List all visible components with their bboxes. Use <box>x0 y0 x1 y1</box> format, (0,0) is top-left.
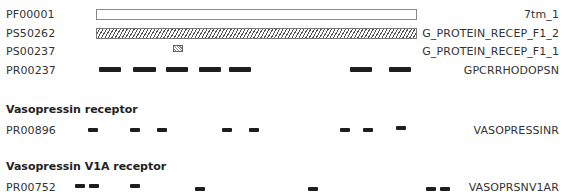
domain-box-open[interactable] <box>96 9 417 20</box>
section-title-vasopressin-receptor: Vasopressin receptor <box>6 103 138 116</box>
row-id-pr00237[interactable]: PR00237 <box>6 64 56 77</box>
segment[interactable] <box>195 187 205 191</box>
segment[interactable] <box>229 67 251 72</box>
segment[interactable] <box>340 128 350 132</box>
domain-box-hatched[interactable] <box>96 28 417 39</box>
segment[interactable] <box>130 184 140 188</box>
motif-box-small[interactable] <box>173 45 183 52</box>
row-name-g-protein-recep-f1-1: G_PROTEIN_RECEP_F1_1 <box>422 45 559 58</box>
row-name-vasopressinr: VASOPRESSINR <box>474 124 560 137</box>
segment[interactable] <box>389 67 411 72</box>
segment[interactable] <box>75 184 85 188</box>
segment[interactable] <box>89 184 99 188</box>
segment[interactable] <box>166 67 188 72</box>
segment[interactable] <box>133 67 156 72</box>
segment[interactable] <box>130 128 140 132</box>
section-title-vasopressin-v1a-receptor: Vasopressin V1A receptor <box>6 160 166 173</box>
segment[interactable] <box>308 187 318 191</box>
row-id-pr00896[interactable]: PR00896 <box>6 124 56 137</box>
segment[interactable] <box>88 128 98 132</box>
segment[interactable] <box>99 67 121 72</box>
row-name-7tm-1: 7tm_1 <box>524 8 559 21</box>
row-name-gpcrrhodopsn: GPCRRHODOPSN <box>464 64 559 77</box>
segment[interactable] <box>249 128 259 132</box>
segment[interactable] <box>350 67 372 72</box>
segment[interactable] <box>426 187 436 191</box>
row-id-pf00001[interactable]: PF00001 <box>6 8 55 21</box>
segment[interactable] <box>363 128 373 132</box>
row-id-ps50262[interactable]: PS50262 <box>6 27 55 40</box>
row-id-pr00752[interactable]: PR00752 <box>6 181 56 194</box>
row-name-g-protein-recep-f1-2: G_PROTEIN_RECEP_F1_2 <box>422 27 559 40</box>
row-id-ps00237[interactable]: PS00237 <box>6 45 55 58</box>
segment[interactable] <box>157 128 167 132</box>
segment[interactable] <box>440 187 450 191</box>
segment[interactable] <box>396 126 406 130</box>
segment[interactable] <box>199 67 221 72</box>
row-name-vasoprsnv1ar: VASOPRSNV1AR <box>469 181 559 194</box>
segment[interactable] <box>222 128 232 132</box>
